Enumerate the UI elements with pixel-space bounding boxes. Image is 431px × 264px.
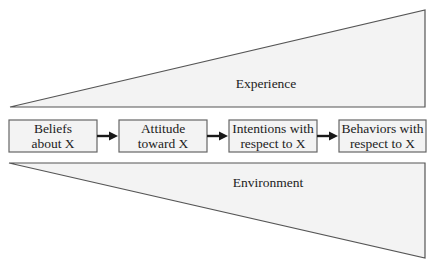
box-attitude-line2: toward X bbox=[138, 136, 189, 151]
box-beliefs-text: Beliefs about X bbox=[9, 120, 97, 152]
box-attitude-text: Attitude toward X bbox=[119, 120, 207, 152]
box-beliefs-line2: about X bbox=[31, 136, 74, 151]
environment-wedge bbox=[9, 163, 425, 258]
arrow-attitude-to-intentions bbox=[207, 132, 228, 141]
box-intentions-line1: Intentions with bbox=[232, 121, 313, 136]
box-beliefs-line1: Beliefs bbox=[34, 121, 72, 136]
arrow-intentions-to-behaviors bbox=[317, 132, 338, 141]
box-behaviors-line1: Behaviors with bbox=[341, 121, 423, 136]
arrow-beliefs-to-attitude bbox=[97, 132, 118, 141]
experience-label: Experience bbox=[236, 77, 297, 91]
box-intentions-text: Intentions with respect to X bbox=[229, 120, 317, 152]
box-behaviors-text: Behaviors with respect to X bbox=[339, 120, 426, 152]
box-intentions-line2: respect to X bbox=[240, 136, 305, 151]
experience-wedge bbox=[10, 10, 425, 107]
box-attitude-line1: Attitude bbox=[141, 121, 185, 136]
box-behaviors-line2: respect to X bbox=[350, 136, 415, 151]
environment-label: Environment bbox=[233, 176, 304, 190]
